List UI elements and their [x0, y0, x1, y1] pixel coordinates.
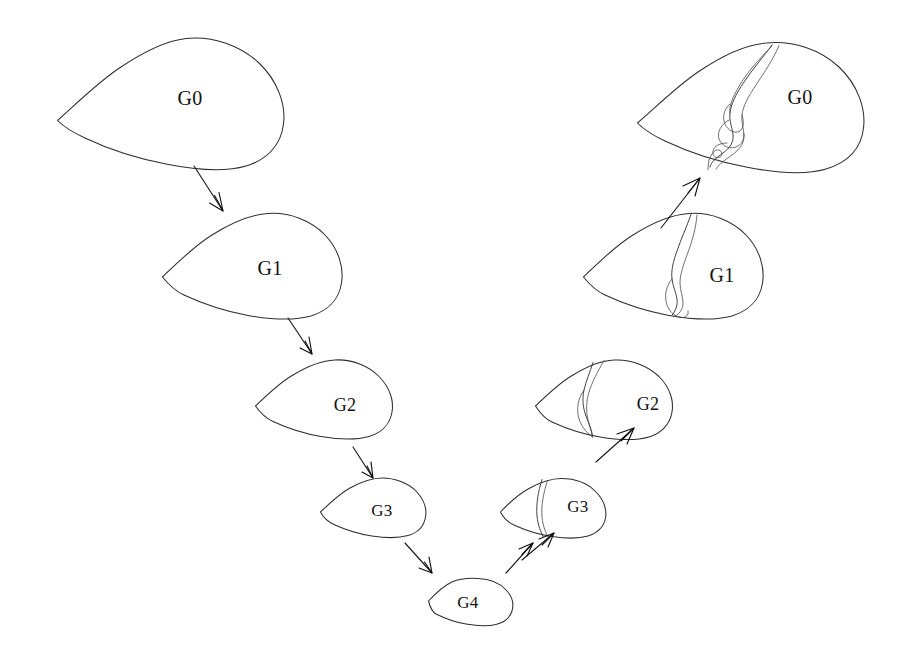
- blob-label-right-g3: G3: [567, 497, 588, 516]
- diagram-canvas: G0 G1 G2: [0, 0, 913, 670]
- segmentation-curve-right-g0-upper-lens: [730, 46, 772, 113]
- blob-label-left-g3: G3: [371, 501, 392, 520]
- arrow-head: [519, 543, 533, 556]
- arrow-head: [210, 193, 224, 212]
- segmentation-curve-right-g1-a: [672, 215, 691, 316]
- segmentation-curve-right-g0-bead1: [724, 104, 744, 132]
- blob-outline-left-g0: [58, 38, 284, 170]
- blob-outline-right-g1: [584, 213, 764, 319]
- segmentation-curve-right-g0-hook: [708, 143, 727, 170]
- arrow-g3-to-g2: [522, 533, 554, 560]
- arrow-shaft: [405, 543, 432, 573]
- arrow-g2-to-g1: [596, 428, 634, 462]
- left-column-group: G0 G1 G2: [58, 38, 513, 626]
- shape-left-g3[interactable]: G3: [321, 478, 426, 538]
- blob-outline-left-g1: [163, 213, 343, 319]
- blob-outline-left-g2: [256, 360, 393, 439]
- blob-label-right-g1: G1: [709, 264, 734, 286]
- shape-right-g2[interactable]: G2: [536, 360, 673, 440]
- blob-label-left-g4: G4: [457, 593, 479, 612]
- arrow-g3-to-g4: [405, 543, 432, 573]
- shape-right-g1[interactable]: G1: [584, 213, 764, 319]
- blob-label-left-g1: G1: [257, 257, 282, 279]
- arrow-g0-to-g1: [194, 166, 223, 211]
- blob-outline-right-g3: [501, 479, 606, 539]
- blob-label-right-g2: G2: [637, 394, 660, 414]
- segmentation-curve-right-g0-a: [710, 45, 772, 167]
- shape-left-g0[interactable]: G0: [58, 38, 284, 170]
- blob-label-right-g0: G0: [787, 86, 812, 108]
- blob-label-left-g0: G0: [177, 87, 202, 109]
- shape-right-g0[interactable]: G0: [638, 42, 864, 172]
- shape-left-g4[interactable]: G4: [429, 578, 513, 626]
- shape-left-g1[interactable]: G1: [163, 213, 343, 319]
- segmentation-curve-right-g2-b: [587, 361, 604, 438]
- arrow-g1-to-g0: [661, 178, 700, 228]
- arrow-head: [683, 178, 700, 196]
- segmentation-curve-right-g3-b: [542, 481, 548, 538]
- blob-outline-right-g0: [638, 42, 864, 172]
- shape-right-g3[interactable]: G3: [501, 479, 606, 539]
- arrow-g2-to-g3: [353, 447, 373, 478]
- segmentation-curve-right-g2-a: [583, 363, 593, 437]
- arrow-g1-to-g2: [288, 318, 312, 354]
- right-column-group: G3 G2: [501, 42, 864, 573]
- arrow-g4-to-g3: [506, 543, 533, 573]
- arrow-shaft: [353, 447, 373, 478]
- diagram-root: G0 G1 G2: [0, 0, 913, 670]
- shape-left-g2[interactable]: G2: [256, 360, 393, 439]
- blob-label-left-g2: G2: [334, 395, 357, 415]
